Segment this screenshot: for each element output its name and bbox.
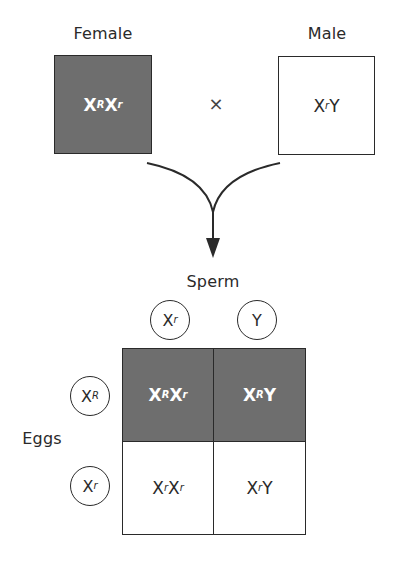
allele-base: X — [82, 477, 93, 496]
allele-base: Y — [262, 478, 272, 498]
allele-base: X — [81, 387, 92, 406]
sperm-allele-xr: Xr — [150, 300, 190, 340]
punnett-cell-xry: XrY — [214, 442, 305, 535]
allele-base: X — [152, 478, 164, 498]
sperm-label: Sperm — [163, 272, 263, 291]
allele-base: X — [169, 385, 182, 405]
eggs-label: Eggs — [14, 429, 70, 448]
allele-base: X — [243, 385, 256, 405]
punnett-cell-xrxr: XrXr — [123, 442, 214, 535]
allele-base: Y — [264, 385, 276, 405]
allele-base: X — [162, 311, 173, 330]
allele-base: X — [149, 385, 162, 405]
allele-base: X — [168, 478, 180, 498]
egg-allele-xR: XR — [70, 376, 110, 416]
punnett-square: XRXr XRY XrXr XrY — [122, 348, 306, 535]
egg-allele-xr: Xr — [70, 466, 110, 506]
allele-base: Y — [252, 311, 262, 330]
merge-down-arrow-icon — [0, 0, 394, 300]
allele-base: X — [246, 478, 258, 498]
punnett-cell-xRxr: XRXr — [123, 349, 214, 442]
punnett-cell-xRy: XRY — [214, 349, 305, 442]
sperm-allele-y: Y — [237, 300, 277, 340]
